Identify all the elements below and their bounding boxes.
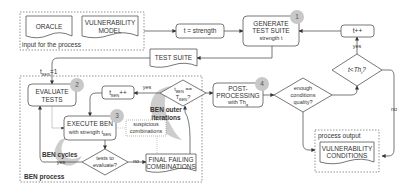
no-label-right: no (389, 106, 399, 113)
execute-label-2: with strength tBEN (64, 129, 116, 139)
tben-check-q: ? (187, 94, 190, 100)
tben-inc-op: ++ (119, 89, 127, 96)
suspicious-label-2: combinations (126, 128, 166, 135)
process-output-label: process output (318, 132, 361, 140)
t-less-th-q: ? (362, 66, 366, 73)
strength-label: t = strength (176, 27, 224, 35)
evaluate-label-1: EVALUATE (28, 88, 76, 96)
execute-strength-text: with strength t (69, 129, 103, 135)
suspicious-label-1: suspicious (126, 121, 166, 128)
enough-label-1: enough (283, 85, 323, 92)
yes-label-outer: yes (140, 84, 154, 91)
generate-label-2: TEST SUITE (243, 27, 299, 35)
tben-check-op: == (184, 86, 192, 92)
input-group-label: input for the process (22, 41, 81, 49)
post-sub: q (246, 102, 248, 107)
step-badge-3: 3 (110, 109, 124, 123)
yes-label-t: yes (350, 43, 364, 50)
t-less-th-label: t<Tht? (336, 66, 378, 77)
tben-increment-label: tBEN++ (102, 89, 134, 100)
ben-process-label: BEN process (24, 173, 64, 181)
test-suite-label: TEST SUITE (150, 54, 197, 62)
ben-cycles-label: BEN cycles (42, 151, 77, 159)
tben-inc-sub: BEN (111, 93, 119, 98)
vuln-model-label-2: MODEL (82, 27, 138, 35)
t-less-th-text: t<Th (348, 66, 361, 73)
generate-label-3: strength t (243, 35, 299, 42)
execute-label-1: EXECUTE BEN (64, 120, 116, 128)
oracle-label: ORACLE (26, 23, 72, 31)
step-badge-2: 2 (70, 78, 84, 92)
enough-label-2: conditions (283, 92, 323, 99)
tben-init-sub: BEN (42, 72, 50, 77)
step-badge-1: 1 (290, 10, 304, 24)
step-badge-4: 4 (255, 77, 269, 91)
no-label-tests: no (131, 158, 141, 165)
tests-eval-label-2: evaluate? (85, 162, 125, 169)
ben-outer-label-1: BEN outer (146, 106, 186, 114)
tben-init-val: =1 (50, 68, 57, 75)
t-increment-label: t++ (341, 27, 374, 35)
final-label-2: COMBINATIONS (146, 163, 196, 171)
tests-eval-label-1: tests to (85, 155, 125, 162)
tben-check-label-2: TBEN? (166, 94, 200, 104)
post-th-text: with Th (228, 99, 246, 105)
enough-label-3: quality? (283, 99, 323, 106)
vuln-model-label-1: VULNERABILITY (82, 19, 138, 27)
vuln-conditions-label-2: CONDITIONS (320, 152, 374, 160)
post-label-3: with Thq (213, 99, 263, 109)
yes-label-cycles: yes (54, 159, 68, 166)
tben-init-label: tBEN=1 (40, 68, 57, 79)
execute-sub: BEN (103, 132, 111, 137)
evaluate-label-2: TESTS (28, 96, 76, 104)
